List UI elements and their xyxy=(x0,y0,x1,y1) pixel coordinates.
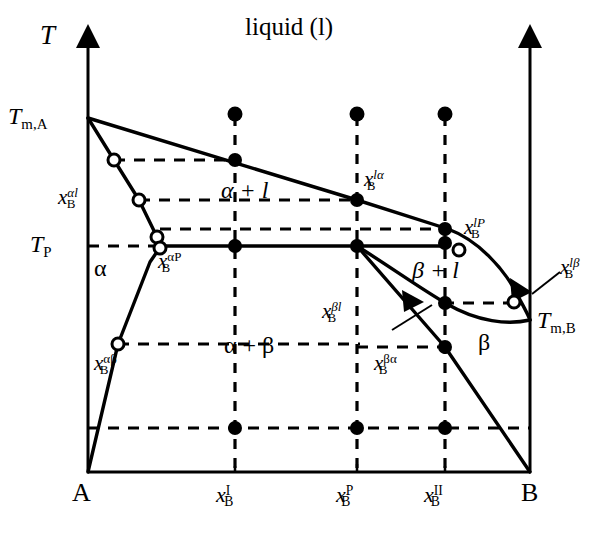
phase-diagram-canvas xyxy=(0,0,611,539)
dot-alloy-II-liquidus xyxy=(438,222,452,236)
leader-l-beta xyxy=(532,272,560,294)
phase-boundaries xyxy=(88,118,530,472)
dot-x-l-alpha xyxy=(350,193,364,207)
label-x-l-alpha: xlαB xyxy=(364,168,375,192)
dot-alloy-P-lower xyxy=(350,421,364,435)
dot-alloy-II-lower xyxy=(438,421,452,435)
label-x-l-P: xlPB xyxy=(464,216,480,240)
composition-verticals xyxy=(235,116,445,472)
axis-label-x-II: xIIB xyxy=(424,484,440,509)
open-circle-x-l-beta xyxy=(508,296,520,308)
y-axis-label: T xyxy=(40,22,55,49)
dot-alloy-I-lower xyxy=(228,421,242,435)
open-circle-x-alpha-beta xyxy=(112,338,124,350)
label-t-peritectic: TP xyxy=(30,232,52,260)
dot-alloy-II-peritectic xyxy=(438,236,452,250)
axis-label-x-P: xPB xyxy=(336,484,350,509)
region-label-alpha-plus-l: α + l xyxy=(221,178,268,202)
region-label-beta: β xyxy=(478,330,490,354)
label-t-melt-b: Tm,B xyxy=(537,308,576,336)
dot-x-beta-l xyxy=(438,296,452,310)
endpoint-label-a: A xyxy=(72,480,91,506)
region-label-beta-plus-l: β + l xyxy=(412,258,459,282)
tie-lines xyxy=(88,160,530,428)
label-t-melt-a: Tm,A xyxy=(8,104,47,132)
open-circle-x-alpha-l xyxy=(133,194,145,206)
phase-diagram-figure: T liquid (l) Tm,A TP Tm,B A B α β α + l … xyxy=(0,0,611,539)
label-x-beta-alpha: xβαB xyxy=(374,352,387,376)
label-x-alpha-beta: xαβB xyxy=(94,352,108,376)
endpoint-label-b: B xyxy=(521,480,538,506)
dot-alloy-P-start xyxy=(350,107,365,122)
open-circle-alpha-solidus-upper xyxy=(108,154,120,166)
liquid-region-label: liquid (l) xyxy=(245,14,333,39)
label-x-alpha-P: xαPB xyxy=(158,250,170,274)
region-label-alpha-plus-beta: α + β xyxy=(224,333,274,357)
dot-alloy-I-start xyxy=(228,107,243,122)
dot-alloy-II-start xyxy=(438,107,453,122)
dot-alloy-P-peritectic xyxy=(350,239,364,253)
label-x-alpha-l: xαlB xyxy=(58,186,75,210)
label-x-beta-l: xβlB xyxy=(322,300,336,324)
label-x-l-beta: xlβB xyxy=(560,256,573,280)
dot-x-beta-alpha xyxy=(438,340,452,354)
liquidus-left xyxy=(88,118,448,229)
axis-label-x-I: xIB xyxy=(216,484,233,509)
region-label-alpha: α xyxy=(94,256,107,280)
dot-alloy-I-liquidus xyxy=(228,153,242,167)
open-circle-x-l-P xyxy=(453,244,465,256)
dot-alloy-I-peritectic xyxy=(228,239,242,253)
